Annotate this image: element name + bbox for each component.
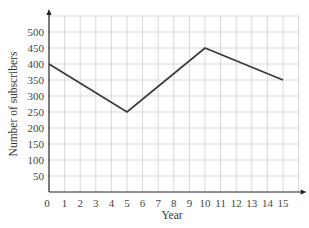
y-tick-label: 450	[28, 42, 45, 54]
y-tick-label: 250	[28, 106, 45, 118]
y-tick-label: 300	[28, 90, 45, 102]
y-tick-label: 350	[28, 74, 45, 86]
x-tick-label: 10	[200, 197, 212, 209]
x-tick-label: 1	[62, 197, 68, 209]
x-axis-arrow-icon	[301, 190, 307, 195]
x-tick-label: 5	[124, 197, 130, 209]
y-axis-title: Number of subscribers	[7, 51, 19, 156]
x-tick-label: 3	[93, 197, 99, 209]
y-tick-label: 150	[28, 138, 45, 150]
x-tick-label: 12	[231, 197, 242, 209]
x-tick-label: 11	[215, 197, 226, 209]
x-tick-label: 9	[187, 197, 193, 209]
x-tick-label: 14	[262, 197, 274, 209]
y-tick-label: 200	[28, 122, 45, 134]
y-axis-tick-labels: 50100150200250300350400450500	[28, 26, 45, 182]
x-tick-label: 13	[246, 197, 258, 209]
x-tick-label: 0	[44, 197, 50, 209]
x-tick-label: 7	[155, 197, 161, 209]
x-axis-tick-labels: 0123456789101112131415	[44, 197, 289, 209]
x-tick-label: 15	[278, 197, 290, 209]
x-tick-label: 8	[171, 197, 177, 209]
y-axis-arrow-icon	[47, 9, 52, 15]
x-axis-title: Year	[161, 209, 182, 221]
x-tick-label: 2	[77, 197, 83, 209]
x-tick-label: 4	[109, 197, 115, 209]
x-tick-label: 6	[140, 197, 146, 209]
y-tick-label: 400	[28, 58, 45, 70]
y-tick-label: 50	[33, 170, 45, 182]
chart-grid	[49, 16, 299, 192]
y-tick-label: 500	[28, 26, 45, 38]
y-tick-label: 100	[28, 154, 45, 166]
line-chart: 50100150200250300350400450500 0123456789…	[0, 0, 309, 228]
